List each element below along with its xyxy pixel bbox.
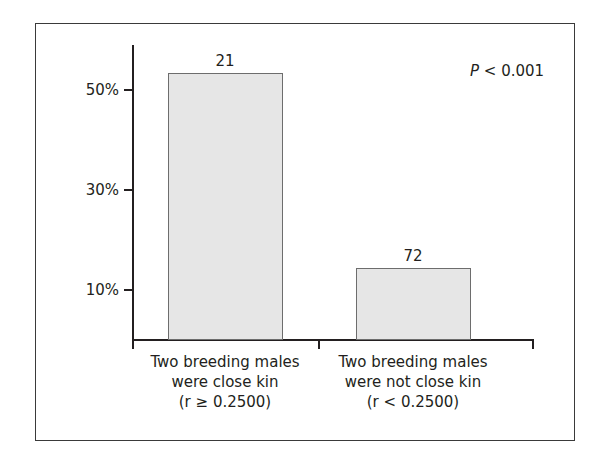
category-label-line: (r < 0.2500) — [318, 392, 508, 412]
category-label-line: Two breeding males — [130, 352, 320, 372]
x-axis-tick-right — [532, 339, 534, 349]
y-tick-30 — [124, 189, 133, 191]
y-tick-label-50: 50% — [86, 81, 119, 99]
category-label-close-kin: Two breeding males were close kin (r ≥ 0… — [130, 352, 320, 412]
y-tick-50 — [124, 89, 133, 91]
category-label-line: were not close kin — [318, 372, 508, 392]
bar-close-kin — [168, 73, 283, 340]
y-tick-label-10: 10% — [86, 281, 119, 299]
y-tick-label-30: 30% — [86, 181, 119, 199]
p-symbol: P — [470, 62, 479, 80]
x-axis-tick-left — [132, 339, 134, 349]
p-value: < 0.001 — [479, 62, 544, 80]
category-label-not-close-kin: Two breeding males were not close kin (r… — [318, 352, 508, 412]
category-label-line: (r ≥ 0.2500) — [130, 392, 320, 412]
bar-label-close-kin: 21 — [168, 52, 282, 70]
y-tick-10 — [124, 289, 133, 291]
category-label-line: Two breeding males — [318, 352, 508, 372]
category-label-line: were close kin — [130, 372, 320, 392]
bar-label-not-close-kin: 72 — [356, 247, 470, 265]
x-axis-tick-middle — [318, 339, 320, 349]
bar-not-close-kin — [356, 268, 471, 340]
p-value-annotation: P < 0.001 — [470, 62, 544, 80]
